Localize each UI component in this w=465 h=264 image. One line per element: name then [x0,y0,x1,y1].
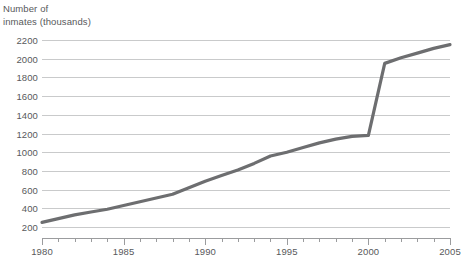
gridline [42,227,450,228]
x-axis-major-tick [450,238,451,245]
y-axis-tick-label: 400 [2,203,38,214]
x-axis-tick-label: 2005 [439,246,461,257]
x-axis-minor-tick [58,238,59,242]
x-axis-minor-tick [156,238,157,242]
x-axis-major-tick [368,238,369,245]
x-axis-minor-tick [385,238,386,242]
y-axis-tick-label: 2200 [2,35,38,46]
x-axis-tick-label: 1985 [113,246,135,257]
x-axis-minor-tick [319,238,320,242]
x-axis-minor-tick [91,238,92,242]
x-axis-tick-label: 1995 [276,246,298,257]
x-axis-major-tick [42,238,43,245]
y-axis-tick-label: 1400 [2,109,38,120]
x-axis-major-tick [124,238,125,245]
y-axis-tick-label: 200 [2,222,38,233]
x-axis-minor-tick [238,238,239,242]
chart-figure: Number ofinmates (thousands) 22002000180… [0,0,465,264]
plot-area [42,40,450,227]
line-series-inmates [42,45,450,223]
y-axis-tick-label: 1200 [2,128,38,139]
y-axis-tick-label: 1600 [2,91,38,102]
x-axis-minor-tick [254,238,255,242]
x-axis-minor-tick [417,238,418,242]
y-axis-tick-label: 2000 [2,53,38,64]
y-axis-tick-label: 1800 [2,72,38,83]
x-axis-major-tick [205,238,206,245]
x-axis-minor-tick [352,238,353,242]
x-axis-minor-tick [270,238,271,242]
x-axis-tick-label: 2000 [358,246,380,257]
x-axis-minor-tick [434,238,435,242]
x-axis-minor-tick [336,238,337,242]
x-axis-minor-tick [189,238,190,242]
x-axis-minor-tick [222,238,223,242]
x-axis-minor-tick [303,238,304,242]
x-axis-minor-tick [140,238,141,242]
x-axis-tick-label: 1980 [31,246,53,257]
x-axis-minor-tick [401,238,402,242]
x-axis-minor-tick [173,238,174,242]
x-axis-tick-label: 1990 [194,246,216,257]
y-axis-tick-labels: 2200200018001600140012001000800600400200 [0,0,38,264]
x-axis-minor-tick [75,238,76,242]
x-axis-minor-tick [107,238,108,242]
y-axis-tick-label: 1000 [2,147,38,158]
y-axis-tick-label: 800 [2,165,38,176]
x-axis-major-tick [287,238,288,245]
line-series-svg [42,40,450,227]
x-axis-line [42,238,451,239]
y-axis-tick-label: 600 [2,184,38,195]
